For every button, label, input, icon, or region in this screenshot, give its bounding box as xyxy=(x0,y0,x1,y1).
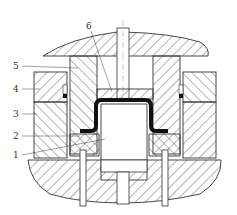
label-part-3: 3 xyxy=(13,109,19,119)
label-part-6: 6 xyxy=(86,21,92,31)
left-outer-ring-upper xyxy=(34,72,67,102)
label-part-1: 1 xyxy=(13,150,19,160)
left-ejector-pin xyxy=(80,150,86,206)
die-cross-section-diagram: 1 2 3 4 5 6 xyxy=(0,0,237,215)
right-outer-ring-lower xyxy=(183,102,216,158)
lower-die-base xyxy=(28,160,221,204)
label-part-4: 4 xyxy=(13,84,19,94)
right-ejector-pin xyxy=(162,150,168,206)
ejector-plate xyxy=(97,89,153,99)
label-part-2: 2 xyxy=(13,131,19,141)
label-part-5: 5 xyxy=(13,61,19,71)
right-outer-ring-upper xyxy=(179,72,216,102)
